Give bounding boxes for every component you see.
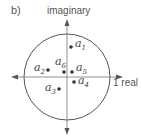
point-a5: a5 xyxy=(70,61,87,76)
point-dot xyxy=(62,70,66,74)
real-axis-label: 1 real xyxy=(113,77,138,88)
imaginary-axis-down-arrow-icon xyxy=(65,128,70,135)
point-a3: a3 xyxy=(45,81,61,96)
point-subscript: 4 xyxy=(84,81,89,89)
point-subscript: 2 xyxy=(40,68,46,76)
point-a1: a1 xyxy=(69,37,86,52)
point-dot xyxy=(57,87,61,91)
point-dot xyxy=(46,68,50,72)
imaginary-axis-up-arrow-icon xyxy=(65,19,70,26)
point-label: a6 xyxy=(55,55,67,70)
point-subscript: 1 xyxy=(82,44,86,52)
points-layer: a1a2a3a4a5a6 xyxy=(34,37,89,96)
point-subscript: 3 xyxy=(52,88,57,96)
complex-plane-diagram: b) imaginary 1 real a1a2a3a4a5a6 xyxy=(0,0,141,139)
point-label: a5 xyxy=(76,61,88,76)
point-a4: a4 xyxy=(72,74,89,89)
point-label: a2 xyxy=(34,61,46,76)
point-subscript: 6 xyxy=(62,62,67,70)
point-label: a3 xyxy=(45,81,57,96)
point-subscript: 5 xyxy=(83,68,88,76)
imaginary-axis-label: imaginary xyxy=(47,5,90,16)
point-a2: a2 xyxy=(34,61,50,76)
point-dot xyxy=(72,80,76,84)
point-dot xyxy=(70,70,74,74)
real-axis-left-arrow-icon xyxy=(11,75,18,80)
point-a6: a6 xyxy=(55,55,67,74)
diagram-canvas: imaginary 1 real a1a2a3a4a5a6 xyxy=(0,0,141,139)
point-label: a4 xyxy=(78,74,89,89)
point-dot xyxy=(69,45,73,49)
point-label: a1 xyxy=(75,37,86,52)
